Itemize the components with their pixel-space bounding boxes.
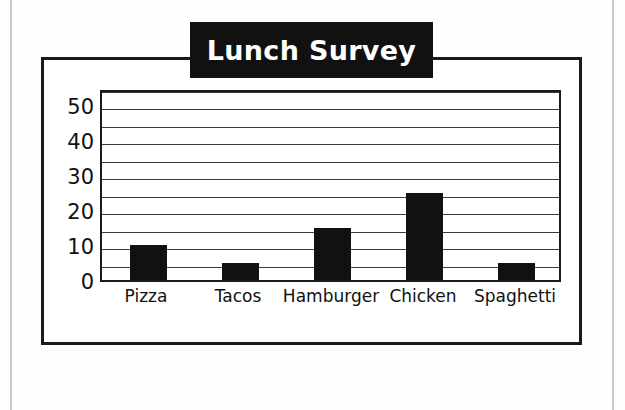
y-tick-label-40: 40 [67,132,94,153]
page-margin-rule-left [10,0,12,410]
bar-chicken [406,193,443,280]
x-category-label-pizza: Pizza [125,286,168,306]
chart-title-banner: Lunch Survey [190,22,433,78]
x-category-label-hamburger: Hamburger [283,286,379,306]
page-margin-rule-right [612,0,614,410]
y-tick-label-0: 0 [81,272,94,293]
y-tick-label-50: 50 [67,97,94,118]
y-tick-label-10: 10 [67,237,94,258]
bars-group [102,92,559,280]
y-tick-label-20: 20 [67,202,94,223]
x-axis-category-labels: PizzaTacosHamburgerChickenSpaghetti [100,286,561,316]
x-category-label-tacos: Tacos [215,286,262,306]
bar-hamburger [314,228,351,280]
plot-area [100,90,561,282]
bar-pizza [130,245,167,280]
y-tick-label-30: 30 [67,167,94,188]
page-title: Lunch Survey [207,35,416,66]
bar-spaghetti [498,263,535,280]
bar-tacos [222,263,259,280]
x-category-label-spaghetti: Spaghetti [474,286,556,306]
y-axis-tick-labels: 01020304050 [48,90,94,282]
x-category-label-chicken: Chicken [389,286,456,306]
